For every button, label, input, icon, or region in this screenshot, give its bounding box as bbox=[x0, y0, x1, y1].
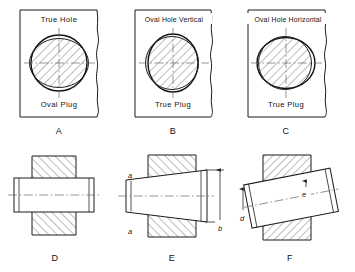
panel-e-dim-a-top: a bbox=[128, 171, 132, 180]
panel-c-top-label: Oval Hole Horizontal bbox=[254, 16, 321, 23]
panel-e-letter: E bbox=[169, 253, 175, 263]
panel-c-bottom-label: True Plug bbox=[268, 100, 304, 109]
panel-b-bottom-label: True Plug bbox=[155, 100, 191, 109]
panel-f-dim-e: e bbox=[302, 190, 306, 199]
panel-b-letter: B bbox=[170, 126, 176, 136]
panel-a-bottom-label: Oval Plug bbox=[41, 100, 78, 109]
panel-e-dim-a-bottom: a bbox=[128, 227, 132, 236]
panel-c-letter: C bbox=[283, 126, 290, 136]
panel-d-letter: D bbox=[52, 253, 59, 263]
technical-drawing-figure: True Hole Oval Plug A Oval Hole Vertical… bbox=[0, 0, 355, 272]
panel-f-letter: F bbox=[287, 253, 293, 263]
panel-a-letter: A bbox=[56, 126, 62, 136]
panel-e-dim-b: b bbox=[218, 224, 222, 233]
panel-a-top-label: True Hole bbox=[41, 15, 78, 24]
drawing-canvas: True Hole Oval Plug A Oval Hole Vertical… bbox=[0, 0, 355, 272]
panel-b-top-label: Oval Hole Vertical bbox=[145, 16, 204, 23]
